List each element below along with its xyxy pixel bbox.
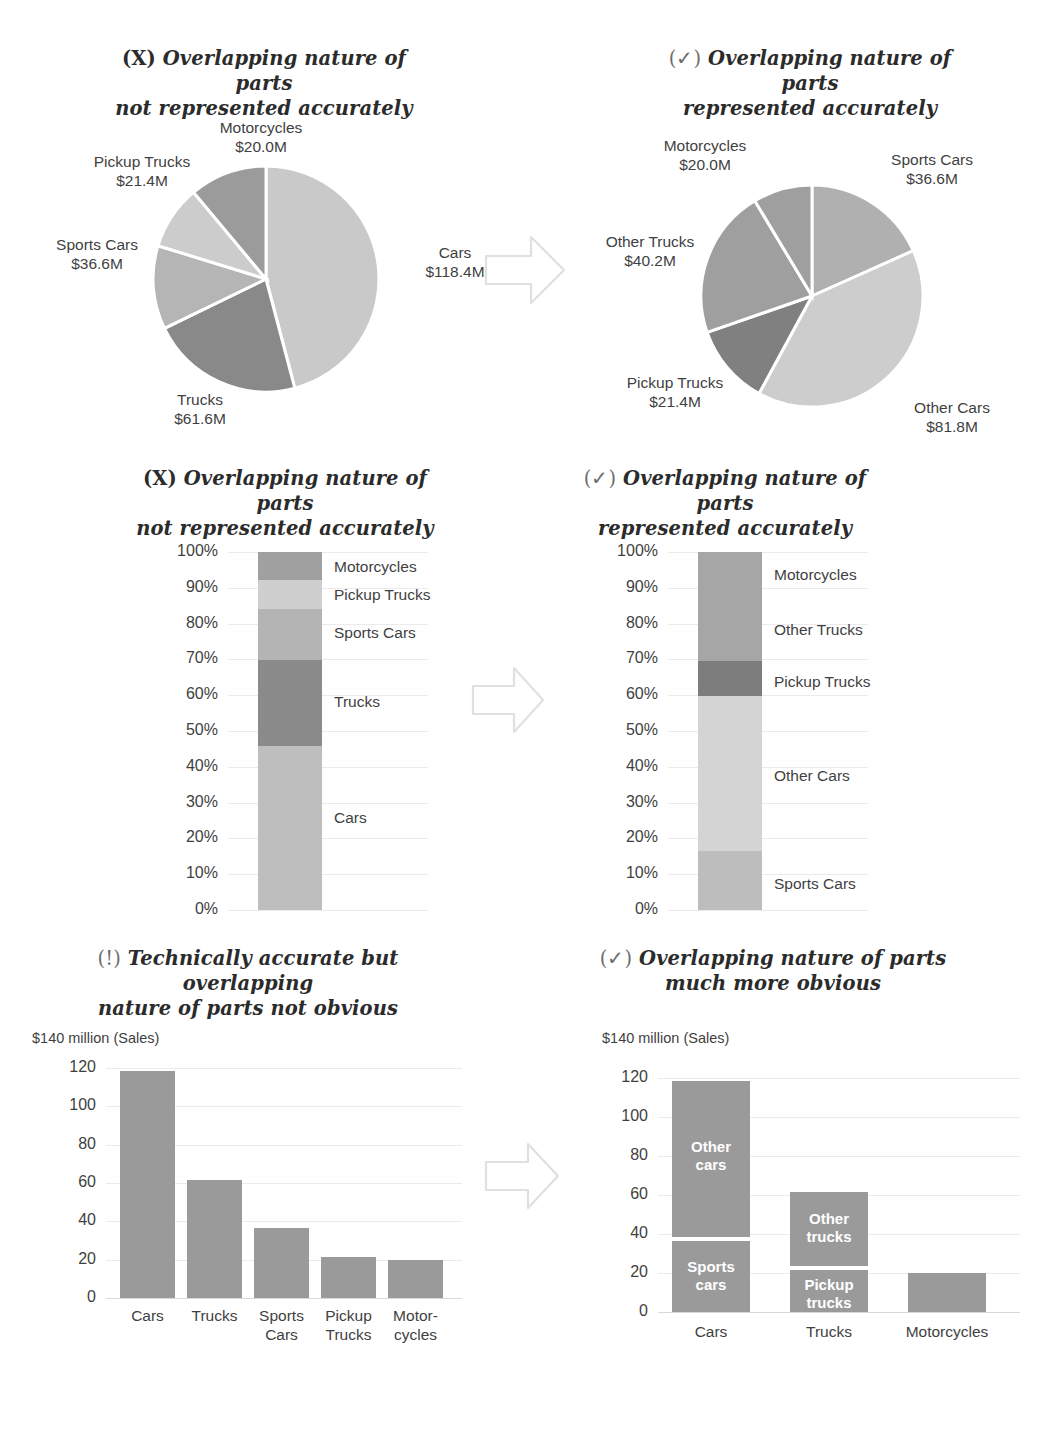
ytick: 50% [150, 721, 218, 739]
bar-chart-bad: $140 million (Sales) 120 100 80 60 40 20… [20, 1030, 480, 1420]
slice-value: $61.6M [174, 410, 226, 427]
ytick: 80 [590, 1146, 648, 1164]
slice-value: $81.8M [926, 418, 978, 435]
check-mark-icon: (✓) [584, 467, 617, 490]
segment-motorcycles [258, 552, 322, 580]
ytick: 90% [150, 578, 218, 596]
segment-other-cars [698, 696, 762, 852]
check-mark-icon: (✓) [669, 47, 702, 70]
ytick: 80 [20, 1135, 96, 1153]
segment-label-pickup-trucks: Pickup Trucks [774, 672, 870, 691]
ytick: 40 [20, 1211, 96, 1229]
slice-label: Other Cars [914, 399, 990, 416]
segment-label-other-cars: Other Cars [774, 766, 850, 785]
ytick: 120 [20, 1058, 96, 1076]
ytick: 80% [150, 614, 218, 632]
segment-label-trucks: Trucks [334, 692, 380, 711]
segment-label-motorcycles: Motorcycles [774, 565, 857, 584]
axis-note: $140 million (Sales) [602, 1030, 729, 1046]
bar-label-pickup-trucks: Pickuptrucks [790, 1276, 868, 1312]
slice-value: $40.2M [624, 252, 676, 269]
ytick: 70% [590, 649, 658, 667]
ytick: 40 [590, 1224, 648, 1242]
slice-label: Pickup Trucks [94, 153, 190, 170]
caption-line2: represented accurately [598, 517, 852, 540]
segment-label-sports-cars: Sports Cars [774, 874, 856, 893]
ytick: 70% [150, 649, 218, 667]
slice-label: Other Trucks [606, 233, 695, 250]
ytick: 30% [590, 793, 658, 811]
xtick-sports-cars: SportsCars [244, 1306, 319, 1344]
bar-label-sports-cars: Sportscars [672, 1258, 750, 1294]
ytick: 10% [590, 864, 658, 882]
slice-value: $36.6M [906, 170, 958, 187]
slice-value: $20.0M [679, 156, 731, 173]
check-mark-icon: (✓) [600, 947, 633, 970]
segment-label-motorcycles: Motorcycles [334, 557, 417, 576]
gridline [658, 1078, 1020, 1079]
axis-note: $140 million (Sales) [32, 1030, 159, 1046]
slice-label: Sports Cars [891, 151, 973, 168]
segment-pickup-trucks [258, 580, 322, 610]
caption-line1: Overlapping nature of parts [163, 47, 406, 95]
ytick: 50% [590, 721, 658, 739]
slice-value: $118.4M [425, 263, 484, 280]
pie-good-label-motorcycles: Motorcycles $20.0M [620, 136, 790, 174]
xtick-cars: Cars [666, 1322, 756, 1341]
ytick: 0 [590, 1302, 648, 1320]
ytick: 60% [150, 685, 218, 703]
exclamation-mark-icon: (!) [98, 947, 121, 970]
xtick-motorcycles: Motorcycles [902, 1322, 992, 1341]
ytick: 20% [150, 828, 218, 846]
ytick: 0% [590, 900, 658, 918]
pie-bad-label-pickup-trucks: Pickup Trucks $21.4M [62, 152, 222, 190]
slice-label: Pickup Trucks [627, 374, 723, 391]
bar-trucks [187, 1180, 242, 1298]
bar-chart-good: $140 million (Sales) 120 100 80 60 40 20… [590, 1030, 1039, 1420]
ytick: 0% [150, 900, 218, 918]
segment-label-cars: Cars [334, 808, 367, 827]
xtick-trucks: Trucks [784, 1322, 874, 1341]
segment-label-pickup-trucks: Pickup Trucks [334, 585, 430, 604]
pie-bad-label-trucks: Trucks $61.6M [135, 390, 265, 428]
xtick-pickup-trucks: PickupTrucks [311, 1306, 386, 1344]
ytick: 60% [590, 685, 658, 703]
segment-sports-cars [698, 851, 762, 910]
arrow-right-icon-row1 [483, 232, 567, 308]
x-axis-line [106, 1298, 462, 1299]
ytick: 40% [590, 757, 658, 775]
ytick: 20% [590, 828, 658, 846]
caption-line2: much more obvious [665, 972, 881, 995]
pie-bad-label-motorcycles: Motorcycles $20.0M [176, 118, 346, 156]
caption-line2: not represented accurately [115, 97, 413, 120]
slice-label: Trucks [177, 391, 223, 408]
segment-cars [258, 746, 322, 910]
bar-motorcycles [908, 1273, 986, 1312]
ytick: 60 [20, 1173, 96, 1191]
caption-line1: Technically accurate but overlapping [128, 947, 399, 995]
slice-label: Cars [439, 244, 472, 261]
caption-bar-bad: (!) Technically accurate but overlapping… [38, 946, 458, 1021]
caption-stack-bad: (X) Overlapping nature of parts not repr… [120, 466, 450, 541]
caption-line2: represented accurately [683, 97, 937, 120]
caption-pie-good: (✓) Overlapping nature of parts represen… [650, 46, 970, 121]
ytick: 0 [20, 1288, 96, 1306]
bar-label-other-trucks: Othertrucks [790, 1210, 868, 1246]
segment-sports-cars [258, 609, 322, 660]
segment-trucks [258, 660, 322, 746]
ytick: 40% [150, 757, 218, 775]
cross-mark-icon: (X) [143, 467, 177, 490]
bar-sports-cars [254, 1228, 309, 1298]
caption-line1: Overlapping nature of parts [623, 467, 866, 515]
caption-line2: not represented accurately [136, 517, 434, 540]
ytick: 100 [590, 1107, 648, 1125]
segment-label-other-trucks: Other Trucks [774, 620, 863, 639]
gridline [668, 910, 868, 911]
gridline [106, 1068, 462, 1069]
segment-motorcycles [698, 552, 762, 597]
xtick-motorcycles: Motor-cycles [378, 1306, 453, 1344]
gridline [228, 910, 428, 911]
slice-label: Motorcycles [220, 119, 303, 136]
segment-pickup-trucks [698, 661, 762, 695]
ytick: 20 [20, 1250, 96, 1268]
